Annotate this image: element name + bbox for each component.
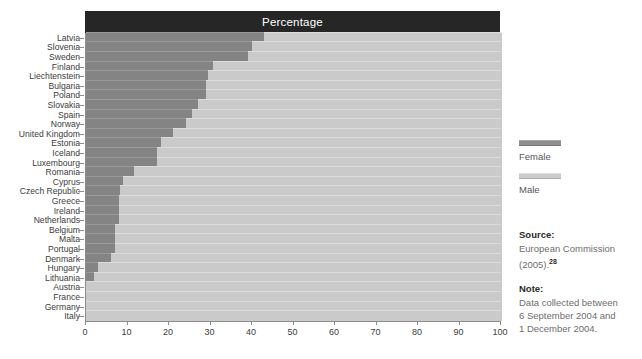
y-axis-tick-label: United Kingdom xyxy=(0,129,80,139)
y-axis-tick-label: Romania xyxy=(0,167,80,177)
x-axis-tick-label: 20 xyxy=(163,327,173,338)
y-axis-tick-mark xyxy=(78,287,84,288)
y-axis-tick-label: Denmark xyxy=(0,254,80,264)
y-axis-tick-mark xyxy=(78,220,84,221)
y-axis-tick-label: Poland xyxy=(0,90,80,100)
y-axis-tick-mark xyxy=(78,76,84,77)
x-axis-tick-mark xyxy=(251,321,252,325)
y-axis-tick-mark xyxy=(78,134,84,135)
x-axis-tick-label: 90 xyxy=(453,327,463,338)
y-axis-tick-mark xyxy=(78,163,84,164)
right-panel: Female Male Source: European Commission … xyxy=(519,0,642,359)
y-axis-tick-mark xyxy=(78,38,84,39)
notes-spacer xyxy=(519,271,642,282)
y-axis-tick-label: Slovakia xyxy=(0,100,80,110)
x-axis-tick-label: 80 xyxy=(412,327,422,338)
notes-block: Source: European Commission (2005).28 No… xyxy=(519,228,642,335)
y-axis-tick-label: Greece xyxy=(0,196,80,206)
y-axis-tick-label: France xyxy=(0,292,80,302)
x-axis-tick-label: 30 xyxy=(204,327,214,338)
bar-rows xyxy=(86,33,501,321)
y-axis-tick-label: Bulgaria xyxy=(0,81,80,91)
y-axis-tick-label: Germany xyxy=(0,302,80,312)
y-axis-tick-mark xyxy=(78,115,84,116)
legend-label-male: Male xyxy=(519,184,642,195)
y-axis-tick-label: Latvia xyxy=(0,33,80,43)
y-axis-tick-label: Czech Republic xyxy=(0,186,80,196)
x-axis-tick-mark xyxy=(85,321,86,325)
x-axis-tick-label: 0 xyxy=(82,327,87,338)
y-axis-tick-label: Luxembourg xyxy=(0,158,80,168)
y-axis-tick-mark xyxy=(78,172,84,173)
y-axis-tick-mark xyxy=(78,47,84,48)
chart-figure: Percentage LatviaSloveniaSwedenFinlandLi… xyxy=(0,0,510,359)
source-heading: Source: xyxy=(519,228,642,241)
y-axis-tick-label: Sweden xyxy=(0,52,80,62)
legend-swatch-female-icon xyxy=(519,140,561,146)
y-axis-tick-mark xyxy=(78,153,84,154)
y-axis-tick-mark xyxy=(78,67,84,68)
y-axis-tick-label: Belgium xyxy=(0,225,80,235)
y-axis-tick-mark xyxy=(78,191,84,192)
plot-area xyxy=(85,33,502,321)
y-axis-tick-label: Austria xyxy=(0,282,80,292)
legend-label-female: Female xyxy=(519,151,642,162)
y-axis-tick-mark xyxy=(78,143,84,144)
y-axis-tick-label: Liechtenstein xyxy=(0,71,80,81)
y-axis-tick-label: Slovenia xyxy=(0,42,80,52)
y-axis-tick-mark xyxy=(78,105,84,106)
x-axis-tick-label: 70 xyxy=(370,327,380,338)
x-axis-tick-mark xyxy=(293,321,294,325)
note-line-3: 1 December 2004. xyxy=(519,322,642,335)
y-axis-tick-label: Finland xyxy=(0,62,80,72)
y-axis-tick-mark xyxy=(78,307,84,308)
y-axis-tick-mark xyxy=(78,182,84,183)
y-axis-tick-label: Portugal xyxy=(0,244,80,254)
x-axis-tick-label: 10 xyxy=(121,327,131,338)
note-line-1: Data collected between xyxy=(519,296,642,309)
legend-entry-male: Male xyxy=(519,173,642,195)
y-axis-tick-mark xyxy=(78,86,84,87)
chart-title: Percentage xyxy=(85,11,500,33)
y-axis-tick-mark xyxy=(78,95,84,96)
x-axis-tick-mark xyxy=(417,321,418,325)
x-axis-tick-label: 100 xyxy=(492,327,507,338)
y-axis-tick-label: Iceland xyxy=(0,148,80,158)
x-axis-tick-mark xyxy=(334,321,335,325)
x-axis-tick-label: 60 xyxy=(329,327,339,338)
y-axis-tick-label: Italy xyxy=(0,311,80,321)
y-axis-tick-mark xyxy=(78,239,84,240)
y-axis-tick-mark xyxy=(78,230,84,231)
source-reference-number: 28 xyxy=(549,258,557,265)
note-heading: Note: xyxy=(519,282,642,295)
y-axis-tick-mark xyxy=(78,124,84,125)
y-axis-tick-mark xyxy=(78,316,84,317)
y-axis-tick-label: Malta xyxy=(0,234,80,244)
y-axis-tick-label: Spain xyxy=(0,110,80,120)
y-axis-tick-mark xyxy=(78,211,84,212)
x-axis-tick-mark xyxy=(500,321,501,325)
y-axis-tick-mark xyxy=(78,297,84,298)
y-axis-tick-mark xyxy=(78,259,84,260)
x-axis-tick-mark xyxy=(168,321,169,325)
y-axis-tick-label: Cyprus xyxy=(0,177,80,187)
source-line-1: European Commission xyxy=(519,242,642,255)
y-axis-tick-label: Hungary xyxy=(0,263,80,273)
y-axis-tick-mark xyxy=(78,201,84,202)
x-axis-tick-mark xyxy=(459,321,460,325)
source-year: (2005). xyxy=(519,259,549,270)
legend-entry-female: Female xyxy=(519,140,642,162)
x-axis-tick-mark xyxy=(127,321,128,325)
note-line-2: 6 September 2004 and xyxy=(519,309,642,322)
y-axis-tick-mark xyxy=(78,57,84,58)
x-axis-tick-mark xyxy=(210,321,211,325)
y-axis-tick-label: Lithuania xyxy=(0,273,80,283)
y-axis-tick-label: Netherlands xyxy=(0,215,80,225)
y-axis-tick-mark xyxy=(78,249,84,250)
x-axis-tick-mark xyxy=(376,321,377,325)
chart-legend: Female Male xyxy=(519,140,642,206)
y-axis-tick-label: Norway xyxy=(0,119,80,129)
x-axis-tick-label: 40 xyxy=(246,327,256,338)
y-axis-labels: LatviaSloveniaSwedenFinlandLiechtenstein… xyxy=(0,33,80,321)
y-axis-tick-mark xyxy=(78,278,84,279)
